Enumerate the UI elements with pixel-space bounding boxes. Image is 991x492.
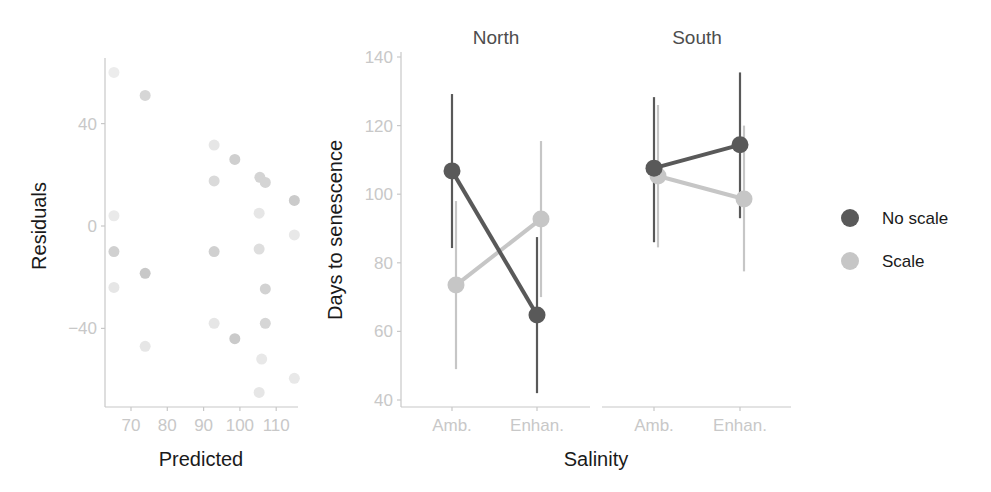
mean-point xyxy=(448,277,465,294)
residual-point xyxy=(209,140,220,151)
facet-title-north: North xyxy=(473,27,519,48)
x-tick-label: 70 xyxy=(122,416,141,435)
y-tick-label: 0 xyxy=(88,217,97,236)
x-tick-label: 100 xyxy=(226,416,254,435)
x-tick-label: Amb. xyxy=(634,416,674,435)
mean-point xyxy=(533,210,550,227)
series-line xyxy=(452,171,537,315)
residual-point xyxy=(140,268,151,279)
y-tick-label: 40 xyxy=(78,115,97,134)
residual-point xyxy=(289,373,300,384)
residual-point xyxy=(289,195,300,206)
residuals-y-title: Residuals xyxy=(28,182,50,270)
y-tick-label: 100 xyxy=(365,185,393,204)
residual-point xyxy=(254,208,265,219)
legend: No scale Scale xyxy=(841,209,948,271)
residual-point xyxy=(229,154,240,165)
mean-point xyxy=(529,306,546,323)
residual-point xyxy=(289,229,300,240)
residual-point xyxy=(209,175,220,186)
figure: −40040 708090100110 Residuals Predicted … xyxy=(0,0,991,492)
residual-point xyxy=(260,177,271,188)
mean-point xyxy=(732,136,749,153)
facet-south xyxy=(646,72,753,271)
residuals-y-ticks: −40040 xyxy=(68,115,105,339)
mean-point xyxy=(646,160,663,177)
residuals-x-title: Predicted xyxy=(159,448,244,470)
residual-point xyxy=(260,283,271,294)
x-tick-label: Enhan. xyxy=(713,416,767,435)
x-tick-label: Enhan. xyxy=(510,416,564,435)
residual-points xyxy=(108,67,299,398)
y-tick-label: 140 xyxy=(365,48,393,67)
residuals-panel: −40040 708090100110 Residuals Predicted xyxy=(28,58,300,470)
mean-point xyxy=(444,162,461,179)
x-tick-label: 90 xyxy=(194,416,213,435)
legend-scale-marker xyxy=(841,252,859,270)
y-tick-label: −40 xyxy=(68,319,97,338)
legend-no-scale-marker xyxy=(841,209,859,227)
residual-point xyxy=(254,244,265,255)
residual-point xyxy=(108,210,119,221)
legend-scale-label: Scale xyxy=(882,252,925,271)
y-tick-label: 80 xyxy=(374,254,393,273)
salinity-x-title: Salinity xyxy=(564,448,628,470)
y-tick-label: 40 xyxy=(374,391,393,410)
y-tick-label: 60 xyxy=(374,322,393,341)
salinity-x-ticks: Amb.Enhan.Amb.Enhan. xyxy=(432,407,767,435)
senescence-y-title: Days to senescence xyxy=(324,140,346,320)
x-tick-label: 80 xyxy=(158,416,177,435)
residuals-x-ticks: 708090100110 xyxy=(122,407,290,435)
series-line xyxy=(658,176,744,199)
residual-point xyxy=(140,90,151,101)
senescence-y-ticks: 406080100120140 xyxy=(365,48,401,410)
residual-point xyxy=(108,282,119,293)
x-tick-label: Amb. xyxy=(432,416,472,435)
series-line xyxy=(654,145,740,168)
residual-point xyxy=(260,318,271,329)
residual-point xyxy=(209,318,220,329)
y-tick-label: 120 xyxy=(365,117,393,136)
residual-point xyxy=(229,333,240,344)
facet-north xyxy=(444,94,550,393)
x-tick-label: 110 xyxy=(263,416,290,435)
residual-point xyxy=(108,246,119,257)
senescence-panel: North South 406080100120140 Amb.Enhan.Am… xyxy=(324,27,791,470)
residual-point xyxy=(254,387,265,398)
residual-point xyxy=(140,341,151,352)
mean-point xyxy=(736,191,753,208)
facet-title-south: South xyxy=(672,27,722,48)
residual-point xyxy=(108,67,119,78)
residual-point xyxy=(256,354,267,365)
residual-point xyxy=(209,246,220,257)
legend-no-scale-label: No scale xyxy=(882,209,948,228)
